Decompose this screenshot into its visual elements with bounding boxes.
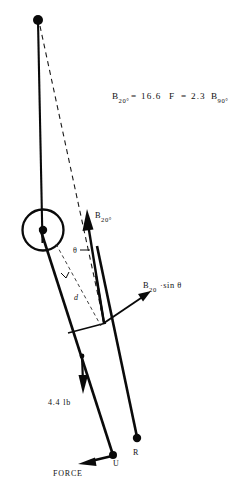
muscle-force-arrowhead	[83, 209, 94, 231]
equation-equals-2: =	[181, 91, 187, 101]
limb-beam-right-edge	[97, 246, 137, 437]
perpendicular-component-label-group: B 20 ·sin θ	[143, 281, 182, 293]
limb-beam-left-edge	[40, 228, 113, 455]
equation-rhs-subscript: 90°	[218, 97, 229, 104]
muscle-force-label-group: B 20°	[95, 211, 112, 223]
muscle-force-label-subscript: 20°	[101, 216, 112, 223]
point-u-dot	[109, 451, 117, 459]
dashed-reference-line	[40, 26, 104, 323]
equation-lhs-subscript: 20°	[119, 97, 130, 104]
point-r-label: R	[133, 448, 139, 457]
theta-angle-tick	[61, 272, 69, 278]
force-label: FORCE	[53, 469, 83, 478]
point-u-label: U	[113, 459, 120, 468]
point-r-dot	[133, 434, 141, 442]
theta-angle-label: θ	[73, 246, 77, 255]
perp-component-label-suffix: ·sin θ	[160, 281, 182, 290]
equation-value-2: 2.3	[191, 91, 206, 101]
weight-vector-origin-dot	[80, 354, 85, 359]
free-body-diagram: B 20° = 16.6 F = 2.3 B 90° B 20° θ d B 2…	[0, 0, 245, 489]
moment-arm-label: d	[74, 293, 79, 302]
weight-vector-arrowhead	[79, 375, 89, 394]
figure-root: B 20° = 16.6 F = 2.3 B 90° B 20° θ d B 2…	[0, 0, 245, 489]
equation-value-1: 16.6	[141, 91, 161, 101]
equation-force-symbol: F	[169, 91, 175, 101]
perp-component-label-subscript: 20	[149, 286, 157, 293]
muscle-force-secondary-line	[96, 276, 104, 323]
weight-label: 4.4 lb	[48, 398, 71, 407]
equation-equals-1: =	[131, 91, 137, 101]
force-vector-arrowhead	[78, 458, 97, 467]
top-pivot-dot	[33, 15, 43, 25]
equation-group: B 20° = 16.6 F = 2.3 B 90°	[112, 91, 229, 104]
